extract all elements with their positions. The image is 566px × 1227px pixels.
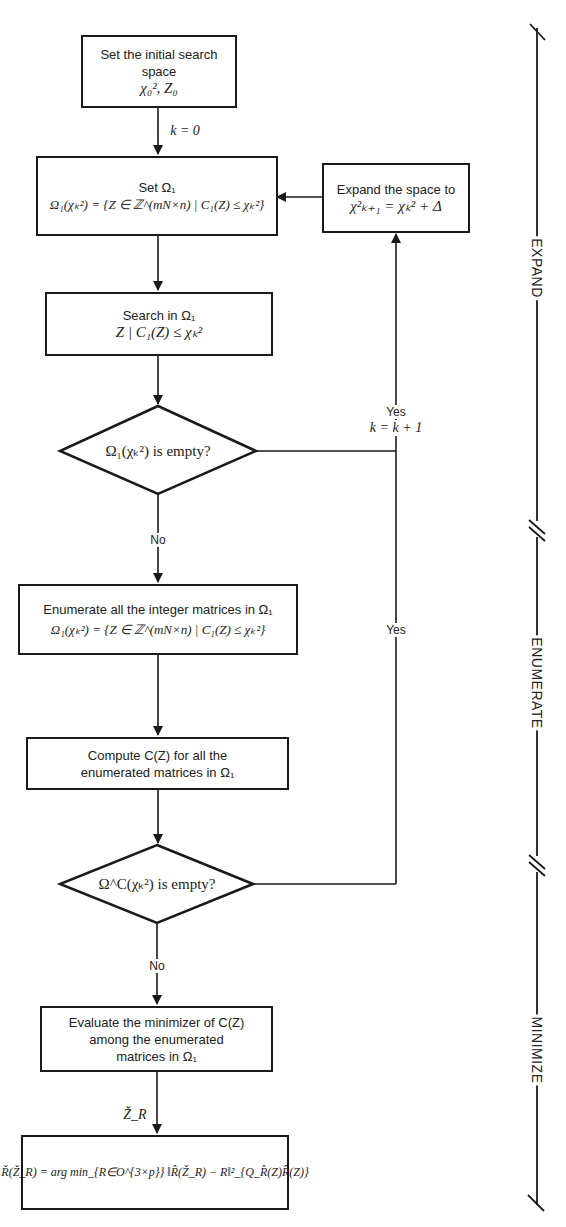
enumerate-box: Enumerate all the integer matrices in Ω₁…: [18, 584, 298, 655]
edge-label-no2: No: [149, 959, 164, 973]
compute-line1: Compute C(Z) for all the: [88, 747, 227, 764]
init-search-space-box: Set the initial search space χ₀², Z₀: [81, 35, 237, 108]
expand-space-box: Expand the space to χ²ₖ₊₁ = χₖ² + Δ: [322, 163, 470, 233]
evaluate-line3: matrices in Ω₁: [116, 1048, 197, 1065]
enumerate-math: Ω₁(χₖ²) = {Z ∈ ℤ^(mN×n) | C₁(Z) ≤ χₖ²}: [51, 621, 265, 638]
init-math: χ₀², Z₀: [140, 80, 177, 97]
expand-title: Expand the space to: [337, 181, 456, 198]
evaluate-box: Evaluate the minimizer of C(Z) among the…: [40, 1006, 273, 1072]
edge-label-k0: k = 0: [170, 123, 200, 139]
decision1-text: Ω₁(χₖ²) is empty?: [105, 442, 210, 460]
enumerate-title: Enumerate all the integer matrices in Ω₁: [43, 601, 272, 618]
search-math: Z | C₁(Z) ≤ χₖ²: [116, 324, 202, 341]
result-math: Ř(Ž_R) = arg min_{R∈O^{3×p}} ‖R̂(Ž_R) − …: [1, 1164, 308, 1181]
init-title: Set the initial search space: [94, 46, 224, 80]
edge-label-zr: Ž_R: [123, 1107, 146, 1123]
search-title: Search in Ω₁: [123, 307, 196, 324]
phase-expand: EXPAND: [529, 236, 545, 300]
evaluate-line1: Evaluate the minimizer of C(Z): [69, 1014, 245, 1031]
edge-label-no1: No: [150, 533, 165, 547]
search-box: Search in Ω₁ Z | C₁(Z) ≤ χₖ²: [45, 292, 273, 356]
set-omega-title: Set Ω₁: [138, 179, 175, 196]
evaluate-line2: among the enumerated: [89, 1031, 223, 1048]
phase-minimize: MINIMIZE: [529, 1015, 545, 1086]
decision2-text: Ω^C(χₖ²) is empty?: [99, 875, 216, 893]
compute-box: Compute C(Z) for all the enumerated matr…: [26, 737, 289, 790]
edge-label-k-increment: k = k + 1: [370, 420, 422, 436]
expand-math: χ²ₖ₊₁ = χₖ² + Δ: [350, 198, 441, 215]
compute-line2: enumerated matrices in Ω₁: [81, 764, 235, 781]
edge-label-yes2: Yes: [386, 623, 406, 637]
result-box: Ř(Ž_R) = arg min_{R∈O^{3×p}} ‖R̂(Ž_R) − …: [21, 1135, 289, 1210]
set-omega-math: Ω₁(χₖ²) = {Z ∈ ℤ^(mN×n) | C₁(Z) ≤ χₖ²}: [50, 196, 264, 213]
set-omega-box: Set Ω₁ Ω₁(χₖ²) = {Z ∈ ℤ^(mN×n) | C₁(Z) ≤…: [36, 156, 278, 236]
edge-label-yes1: Yes: [386, 405, 406, 419]
phase-enumerate: ENUMERATE: [529, 635, 545, 730]
